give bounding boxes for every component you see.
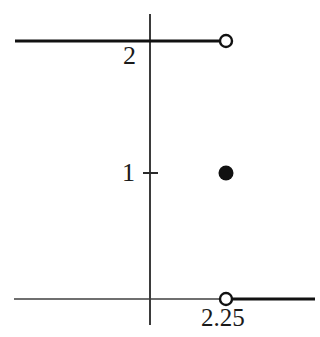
filled-dot-point <box>219 166 234 181</box>
plot-canvas <box>0 0 320 337</box>
y-axis-tick-label-1: 1 <box>122 160 135 186</box>
x-axis-tick-label-2-25: 2.25 <box>201 305 245 330</box>
y-axis-tick-label-2: 2 <box>123 43 136 69</box>
open-circle-top <box>220 35 232 47</box>
piecewise-function-figure: 2 1 2.25 <box>0 0 320 337</box>
